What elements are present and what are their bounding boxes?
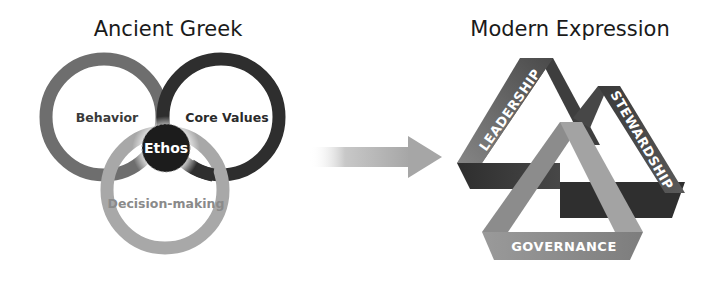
modern-expression-panel: Modern Expression LEADERSHIP STEWARDSHIP (457, 17, 685, 260)
governance-label: GOVERNANCE (511, 239, 617, 254)
ethos-label: Ethos (144, 140, 188, 156)
arrow-right-icon (408, 136, 442, 178)
leadership-band: LEADERSHIP (457, 58, 553, 163)
stewardship-label: STEWARDSHIP (607, 88, 676, 192)
modern-expression-title: Modern Expression (470, 17, 669, 41)
ancient-greek-panel: Ancient Greek Behavior Core Values Decis… (46, 17, 279, 248)
transition-arrow (310, 136, 442, 178)
decision-making-label: Decision-making (108, 196, 225, 211)
venn-diagram: Behavior Core Values Decision-making Eth… (46, 59, 279, 248)
diagram-canvas: Ancient Greek Behavior Core Values Decis… (0, 0, 723, 282)
core-values-label: Core Values (185, 110, 268, 125)
behavior-label: Behavior (76, 110, 139, 125)
ancient-greek-title: Ancient Greek (94, 17, 243, 41)
